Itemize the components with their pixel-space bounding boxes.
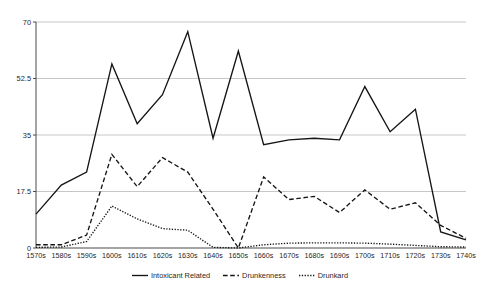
series-line-intoxicant-related [36, 32, 466, 240]
x-tick-label: 1640s [203, 251, 223, 260]
legend-label: Drunkard [318, 271, 348, 280]
y-axis-tick-labels: 017.53552.570 [17, 18, 36, 253]
legend-label: Intoxicant Related [151, 271, 210, 280]
x-tick-label: 1610s [127, 251, 147, 260]
x-tick-label: 1740s [456, 251, 476, 260]
legend-item-intoxicant-related[interactable]: Intoxicant Related [132, 271, 210, 280]
x-tick-label: 1580s [51, 251, 71, 260]
x-axis-tick-labels: 1570s1580s1590s1600s1610s1620s1630s1640s… [26, 251, 476, 260]
y-tick-label: 17.5 [17, 187, 31, 196]
x-tick-label: 1730s [431, 251, 451, 260]
chart-canvas: 017.53552.570 1570s1580s1590s1600s1610s1… [0, 0, 480, 262]
legend-swatch-dotted-icon [299, 272, 315, 279]
y-tick-label: 52.5 [17, 74, 31, 83]
x-tick-label: 1700s [355, 251, 375, 260]
x-tick-label: 1660s [254, 251, 274, 260]
y-tick-label: 35 [23, 131, 31, 140]
legend-label: Drunkenness [242, 271, 286, 280]
x-tick-label: 1690s [330, 251, 350, 260]
x-tick-label: 1570s [26, 251, 46, 260]
data-series-group [36, 32, 466, 248]
chart-legend: Intoxicant RelatedDrunkennessDrunkard [0, 266, 480, 284]
x-tick-label: 1680s [304, 251, 324, 260]
legend-item-drunkard[interactable]: Drunkard [299, 271, 348, 280]
legend-swatch-solid-icon [132, 272, 148, 279]
x-tick-label: 1710s [380, 251, 400, 260]
x-tick-label: 1670s [279, 251, 299, 260]
x-tick-label: 1600s [102, 251, 122, 260]
x-tick-label: 1720s [406, 251, 426, 260]
x-tick-label: 1590s [77, 251, 97, 260]
legend-item-drunkenness[interactable]: Drunkenness [223, 271, 286, 280]
legend-swatch-dashed-icon [223, 272, 239, 279]
line-chart: 017.53552.570 1570s1580s1590s1600s1610s1… [0, 0, 480, 290]
x-tick-label: 1630s [178, 251, 198, 260]
x-tick-label: 1620s [153, 251, 173, 260]
gridlines [36, 22, 466, 192]
plot-area: 017.53552.570 1570s1580s1590s1600s1610s1… [0, 0, 480, 262]
series-line-drunkenness [36, 154, 466, 248]
x-tick-label: 1650s [229, 251, 249, 260]
y-tick-label: 70 [23, 18, 31, 27]
